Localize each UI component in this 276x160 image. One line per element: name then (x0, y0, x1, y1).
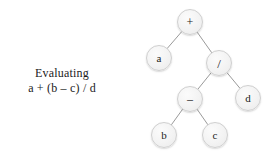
tree-node-label: – (187, 93, 193, 105)
tree-node-d[interactable]: d (235, 85, 261, 111)
tree-node-label: + (187, 16, 194, 28)
tree-node-c[interactable]: c (202, 122, 228, 148)
expression-tree-figure: Evaluating a + (b – c) / d +a/–dbc (0, 0, 276, 160)
tree-edge (171, 109, 182, 125)
tree-edge (227, 73, 240, 89)
tree-edges (0, 0, 276, 160)
tree-edge (197, 32, 212, 53)
tree-edge (167, 31, 182, 48)
tree-node-a[interactable]: a (146, 45, 172, 71)
tree-node-plus[interactable]: + (177, 9, 203, 35)
tree-node-label: / (217, 56, 221, 69)
tree-node-div[interactable]: / (206, 50, 232, 76)
tree-edge (197, 109, 208, 124)
tree-node-b[interactable]: b (151, 122, 177, 148)
tree-node-label: b (161, 129, 167, 140)
tree-node-label: c (213, 129, 218, 140)
tree-edge (198, 73, 211, 90)
tree-node-minus[interactable]: – (177, 86, 203, 112)
tree-node-label: a (157, 52, 162, 63)
tree-node-label: d (245, 92, 251, 103)
